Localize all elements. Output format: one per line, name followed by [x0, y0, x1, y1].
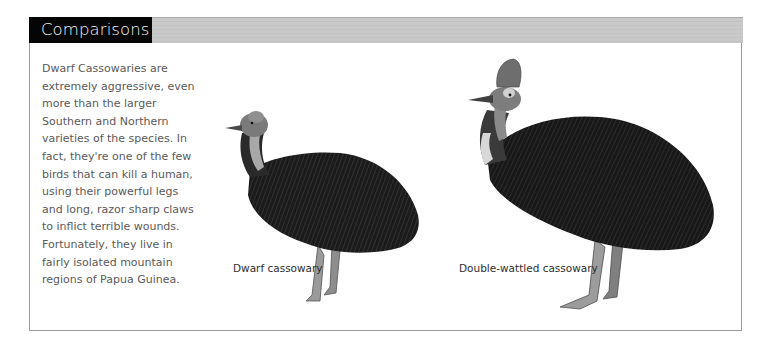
text-line: varieties of the species. In — [42, 130, 202, 148]
text-line: regions of Papua Guinea. — [42, 271, 202, 289]
section-title: Comparisons — [29, 17, 152, 43]
caption-dwarf-cassowary: Dwarf cassowary — [233, 262, 323, 274]
double-wattled-cassowary-illustration — [465, 55, 720, 317]
description-text: Dwarf Cassowaries are extremely aggressi… — [42, 60, 202, 289]
text-line: more than the larger — [42, 95, 202, 113]
caption-double-wattled-cassowary: Double-wattled cassowary — [459, 262, 598, 274]
text-line: Southern and Northern — [42, 113, 202, 131]
text-line: using their powerful legs — [42, 183, 202, 201]
text-line: fairly isolated mountain — [42, 254, 202, 272]
dwarf-cassowary-illustration — [220, 105, 430, 310]
text-line: extremely aggressive, even — [42, 78, 202, 96]
text-line: birds that can kill a human, — [42, 166, 202, 184]
text-line: Dwarf Cassowaries are — [42, 60, 202, 78]
text-line: to inflict terrible wounds. — [42, 218, 202, 236]
text-line: fact, they're one of the few — [42, 148, 202, 166]
text-line: Fortunately, they live in — [42, 236, 202, 254]
text-line: and long, razor sharp claws — [42, 201, 202, 219]
